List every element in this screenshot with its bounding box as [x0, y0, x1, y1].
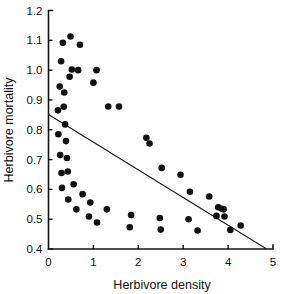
data-points-group	[55, 33, 244, 234]
data-point	[65, 196, 72, 203]
data-point	[87, 199, 94, 206]
data-point	[55, 107, 62, 114]
data-point	[60, 39, 67, 46]
data-point	[67, 33, 74, 40]
data-point	[56, 83, 63, 90]
y-axis-title: Herbivore mortality	[2, 77, 16, 183]
x-axis-line	[49, 245, 274, 249]
x-tick-label: 4	[225, 256, 232, 268]
data-point	[94, 219, 101, 226]
regression-line-group	[49, 115, 267, 249]
x-tick-label: 3	[180, 256, 186, 268]
data-point	[65, 168, 72, 175]
y-tick-label: 0.9	[27, 94, 43, 106]
data-point	[187, 188, 194, 195]
y-tick-label: 0.6	[27, 183, 43, 195]
data-point	[93, 67, 100, 74]
data-point	[69, 66, 76, 73]
x-tick-label: 0	[45, 256, 51, 268]
data-point	[194, 227, 201, 234]
data-point	[62, 121, 69, 128]
data-point	[59, 185, 66, 192]
regression-line	[49, 115, 267, 249]
data-point	[143, 134, 150, 141]
data-point	[157, 226, 164, 233]
data-point	[57, 152, 64, 159]
data-point	[55, 131, 62, 138]
data-point	[90, 79, 97, 86]
data-point	[237, 222, 244, 229]
data-point	[177, 171, 184, 178]
data-point	[63, 138, 70, 145]
data-point	[75, 67, 82, 74]
data-point	[206, 193, 213, 200]
scatter-plot-figure: 0.40.50.60.70.80.91.01.11.2 012345 Herbi…	[0, 0, 284, 294]
data-point	[128, 212, 135, 219]
y-tick-label: 1.1	[27, 34, 43, 46]
x-tick-label: 2	[135, 256, 141, 268]
data-point	[220, 206, 227, 213]
data-point	[64, 155, 71, 162]
data-point	[157, 215, 164, 222]
data-point	[221, 213, 228, 220]
data-point	[77, 41, 84, 48]
y-tick-label: 0.8	[27, 124, 43, 136]
data-point	[61, 89, 68, 96]
data-point	[58, 58, 65, 65]
data-point	[104, 206, 111, 213]
data-point	[146, 140, 153, 147]
data-point	[105, 103, 112, 110]
data-point	[227, 227, 234, 234]
data-point	[86, 213, 93, 220]
data-point	[60, 103, 67, 110]
data-point	[213, 213, 220, 220]
data-point	[158, 165, 165, 172]
data-point	[66, 73, 73, 80]
y-tick-label: 0.7	[27, 154, 43, 166]
plot-canvas: 0.40.50.60.70.80.91.01.11.2 012345 Herbi…	[0, 0, 284, 294]
y-tick-label: 1.2	[27, 5, 43, 17]
data-point	[185, 216, 192, 223]
data-point	[73, 206, 80, 213]
data-point	[116, 103, 123, 110]
y-tick-label: 0.4	[27, 243, 44, 255]
data-point	[126, 224, 133, 231]
x-axis-title: Herbivore density	[113, 278, 211, 292]
data-point	[58, 170, 65, 177]
data-point	[79, 191, 86, 198]
y-tick-label: 0.5	[27, 213, 43, 225]
y-tick-label: 1.0	[27, 64, 43, 76]
x-tick-label: 1	[90, 256, 96, 268]
data-point	[70, 181, 77, 188]
x-tick-label: 5	[270, 256, 276, 268]
